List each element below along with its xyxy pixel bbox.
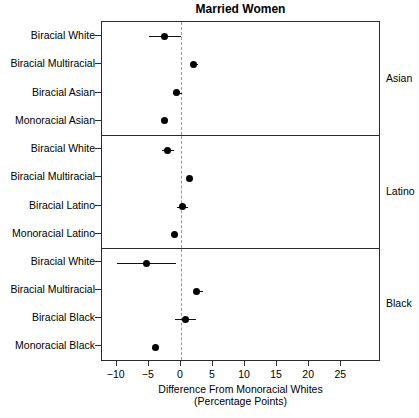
estimate-point	[193, 288, 200, 295]
y-axis-tick	[95, 35, 101, 36]
estimate-point	[182, 316, 189, 323]
y-axis-label: Biracial Multiracial	[10, 58, 95, 69]
x-axis-tick-label: 10	[238, 368, 250, 380]
y-axis-tick	[95, 317, 101, 318]
estimate-point	[143, 260, 150, 267]
chart-title: Married Women	[101, 2, 380, 16]
y-axis-tick	[95, 148, 101, 149]
y-axis-label: Biracial Multiracial	[10, 171, 95, 182]
panel-strip-label-asian: Asian	[386, 72, 412, 84]
y-axis-tick	[95, 233, 101, 234]
x-axis-tick	[276, 361, 277, 366]
estimate-point	[161, 33, 168, 40]
y-axis-label: Biracial Asian	[32, 86, 95, 97]
y-axis-tick	[95, 92, 101, 93]
y-axis-label: Biracial White	[31, 30, 95, 41]
y-axis-label: Biracial White	[31, 143, 95, 154]
x-axis-tick	[308, 361, 309, 366]
y-axis-label: Monoracial Asian	[15, 114, 95, 125]
y-axis-label: Monoracial Latino	[12, 227, 95, 238]
plot-area	[101, 21, 380, 361]
x-axis-subtitle: (Percentage Points)	[101, 395, 380, 408]
panel-black	[102, 248, 379, 360]
x-axis-tick-label: 0	[177, 368, 183, 380]
y-axis-tick	[95, 345, 101, 346]
panel-strip-label-black: Black	[386, 297, 412, 309]
y-axis-label: Biracial Black	[32, 312, 95, 323]
y-axis-label: Biracial Latino	[29, 199, 95, 210]
estimate-point	[161, 117, 168, 124]
estimate-point	[186, 175, 193, 182]
zero-reference-line	[181, 136, 182, 248]
zero-reference-line	[181, 22, 182, 135]
y-axis-label: Biracial White	[31, 256, 95, 267]
estimate-point	[179, 203, 186, 210]
y-axis-tick	[95, 120, 101, 121]
x-axis-tick-label: 25	[334, 368, 346, 380]
x-axis-tick-label: −5	[142, 368, 154, 380]
estimate-point	[190, 61, 197, 68]
estimate-point	[173, 89, 180, 96]
x-axis-tick	[340, 361, 341, 366]
x-axis-tick	[212, 361, 213, 366]
panel-latino	[102, 135, 379, 248]
x-axis-tick	[116, 361, 117, 366]
zero-reference-line	[181, 249, 182, 360]
y-axis-tick	[95, 176, 101, 177]
x-axis-title: Difference From Monoracial Whites	[101, 383, 380, 396]
x-axis-tick-label: 5	[209, 368, 215, 380]
y-axis-tick	[95, 289, 101, 290]
y-axis-label: Biracial Multiracial	[10, 284, 95, 295]
estimate-point	[152, 344, 159, 351]
panel-strip-label-latino: Latino	[386, 185, 415, 197]
x-axis-tick-label: 20	[302, 368, 314, 380]
y-axis-tick	[95, 261, 101, 262]
y-axis-tick	[95, 63, 101, 64]
x-axis-tick	[180, 361, 181, 366]
x-axis-tick	[244, 361, 245, 366]
forest-plot-figure: Married Women Biracial WhiteBiracial Mul…	[0, 0, 419, 418]
y-axis-tick	[95, 205, 101, 206]
x-axis-tick-label: −10	[107, 368, 125, 380]
estimate-point	[164, 147, 171, 154]
estimate-point	[171, 231, 178, 238]
x-axis-tick-label: 15	[270, 368, 282, 380]
panel-asian	[102, 22, 379, 135]
y-axis-label: Monoracial Black	[15, 340, 95, 351]
x-axis-tick	[148, 361, 149, 366]
